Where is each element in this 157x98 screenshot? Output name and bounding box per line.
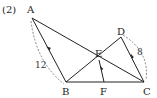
segment-ef [99, 60, 104, 82]
point-label-a: A [26, 4, 35, 15]
problem-label: (2) [2, 4, 16, 15]
segment-bd [66, 37, 121, 82]
measure-label-dc: 8 [137, 47, 143, 57]
point-label-d: D [117, 26, 125, 37]
measure-arc-dc [123, 35, 147, 80]
point-label-b: B [62, 86, 69, 97]
measure-label-ab: 12 [35, 60, 46, 70]
geometry-figure: 12 8 (2) A B C D E F [0, 0, 157, 98]
point-label-e: E [95, 48, 102, 59]
point-label-c: C [143, 86, 151, 97]
point-label-f: F [100, 86, 107, 97]
measure-arc-ab [31, 21, 64, 84]
